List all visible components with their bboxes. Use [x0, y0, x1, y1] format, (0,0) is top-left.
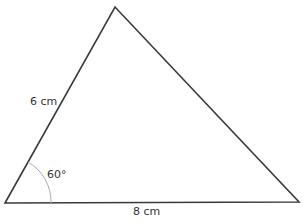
side-left-label: 6 cm: [30, 95, 57, 108]
triangle-diagram: [0, 0, 305, 224]
side-bottom-label: 8 cm: [133, 205, 160, 218]
angle-label: 60°: [47, 168, 67, 181]
